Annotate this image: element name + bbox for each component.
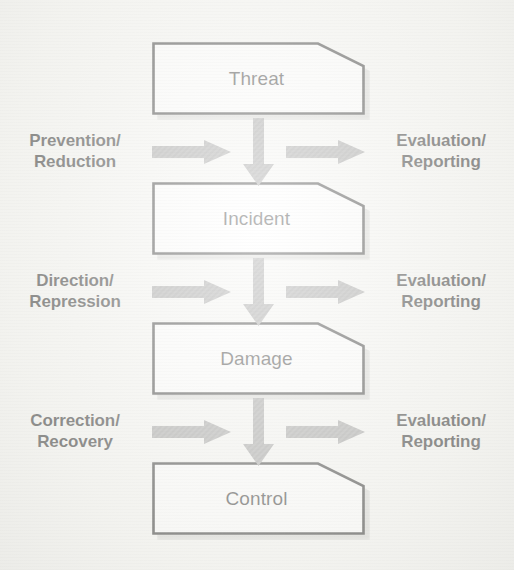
connector-left-label-3-line2: Recovery bbox=[37, 432, 113, 453]
arrow-right-outbound-2 bbox=[286, 280, 365, 304]
connector-row-2: Direction/ Repression Evaluation/ Report… bbox=[0, 264, 514, 320]
node-control[interactable]: Control bbox=[152, 462, 365, 535]
arrow-right-outbound-1 bbox=[286, 140, 365, 164]
connector-left-label-2-line2: Repression bbox=[29, 292, 121, 313]
arrow-right-inbound-3 bbox=[152, 420, 231, 444]
node-incident[interactable]: Incident bbox=[152, 182, 365, 255]
connector-left-label-2-line1: Direction/ bbox=[36, 271, 113, 292]
connector-left-label-3: Correction/ Recovery bbox=[2, 404, 148, 460]
node-threat[interactable]: Threat bbox=[152, 42, 365, 115]
connector-left-label-2: Direction/ Repression bbox=[2, 264, 148, 320]
connector-left-label-1-line1: Prevention/ bbox=[29, 131, 120, 152]
arrow-down-3 bbox=[243, 398, 274, 466]
node-label: Threat bbox=[152, 42, 365, 115]
node-label: Damage bbox=[152, 322, 365, 395]
arrow-right-inbound-2 bbox=[152, 280, 231, 304]
connector-row-1: Prevention/ Reduction Evaluation/ Report… bbox=[0, 124, 514, 180]
arrow-down-2 bbox=[243, 258, 274, 326]
connector-left-label-1-line2: Reduction bbox=[34, 152, 116, 173]
connector-right-label-2-line1: Evaluation/ bbox=[396, 271, 486, 292]
node-damage[interactable]: Damage bbox=[152, 322, 365, 395]
connector-right-label-1: Evaluation/ Reporting bbox=[368, 124, 514, 180]
connector-right-label-3: Evaluation/ Reporting bbox=[368, 404, 514, 460]
connector-right-label-3-line2: Reporting bbox=[401, 432, 480, 453]
connector-row-3: Correction/ Recovery Evaluation/ Reporti… bbox=[0, 404, 514, 460]
diagram-canvas: Threat Prevention/ Reduction Evaluation/… bbox=[0, 0, 514, 570]
connector-right-label-3-line1: Evaluation/ bbox=[396, 411, 486, 432]
arrow-down-1 bbox=[243, 118, 274, 186]
connector-left-label-3-line1: Correction/ bbox=[30, 411, 120, 432]
node-label: Incident bbox=[152, 182, 365, 255]
connector-left-label-1: Prevention/ Reduction bbox=[2, 124, 148, 180]
arrow-right-inbound-1 bbox=[152, 140, 231, 164]
connector-right-label-2-line2: Reporting bbox=[401, 292, 480, 313]
connector-right-label-1-line1: Evaluation/ bbox=[396, 131, 486, 152]
arrow-right-outbound-3 bbox=[286, 420, 365, 444]
connector-right-label-1-line2: Reporting bbox=[401, 152, 480, 173]
connector-right-label-2: Evaluation/ Reporting bbox=[368, 264, 514, 320]
node-label: Control bbox=[152, 462, 365, 535]
